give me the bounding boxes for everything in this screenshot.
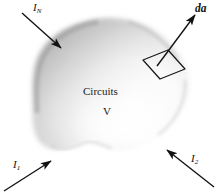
current-label-I1: I1 [13, 159, 20, 172]
current-arrow-I1 [4, 161, 51, 191]
current-arrow-IN [22, 13, 61, 48]
area-vector-label-da: da [195, 3, 207, 15]
circuits-volume-blob [33, 18, 189, 149]
current-label-I2: I2 [191, 153, 198, 166]
current-label-IN: IN [33, 2, 41, 15]
physics-figure: IN I1 I2 da Circuits V [0, 0, 222, 193]
current-label-IN-subscript: N [37, 7, 42, 15]
volume-symbol-label: V [103, 106, 111, 117]
volume-name-label: Circuits [83, 86, 118, 97]
current-label-I1-subscript: 1 [17, 164, 21, 172]
current-label-I2-subscript: 2 [195, 158, 199, 166]
